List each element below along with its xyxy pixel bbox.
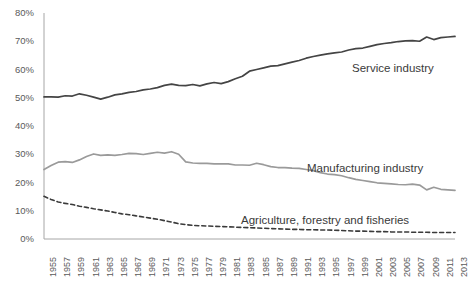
y-tick-label: 70% xyxy=(4,35,34,46)
x-tick-label: 1993 xyxy=(317,257,327,277)
y-tick-label: 40% xyxy=(4,120,34,131)
chart-plot-area xyxy=(0,0,468,281)
x-tick-label: 1995 xyxy=(331,257,341,277)
series-label-1: Manufacturing industry xyxy=(307,162,423,174)
x-tick-label: 1979 xyxy=(218,257,228,277)
axis-lines xyxy=(44,13,455,239)
x-tick-label: 2013 xyxy=(459,257,468,277)
x-tick-label: 1985 xyxy=(261,257,271,277)
industry-share-line-chart: 0%10%20%30%40%50%60%70%80% 1955195719591… xyxy=(0,0,468,281)
y-tick-label: 20% xyxy=(4,177,34,188)
y-tick-label: 10% xyxy=(4,205,34,216)
y-tick-label: 60% xyxy=(4,64,34,75)
y-tick-label: 0% xyxy=(4,233,34,244)
x-tick-label: 1977 xyxy=(204,257,214,277)
x-tick-label: 1987 xyxy=(275,257,285,277)
x-tick-label: 1967 xyxy=(133,257,143,277)
x-tick-label: 2007 xyxy=(416,257,426,277)
x-tick-label: 1961 xyxy=(91,257,101,277)
x-tick-label: 1981 xyxy=(232,257,242,277)
x-tick-label: 2011 xyxy=(445,258,455,277)
series-label-0: Service industry xyxy=(352,62,434,74)
x-tick-label: 1983 xyxy=(246,257,256,277)
x-tick-label: 2009 xyxy=(431,257,441,277)
x-tick-label: 2005 xyxy=(402,257,412,277)
x-tick-label: 2001 xyxy=(374,257,384,277)
x-tick-label: 1955 xyxy=(48,257,58,277)
x-tick-label: 2003 xyxy=(388,257,398,277)
y-tick-label: 30% xyxy=(4,148,34,159)
y-tick-label: 50% xyxy=(4,92,34,103)
x-tick-label: 1997 xyxy=(346,257,356,277)
series-label-2: Agriculture, forestry and fisheries xyxy=(241,214,409,226)
x-tick-label: 1975 xyxy=(190,257,200,277)
x-tick-label: 1991 xyxy=(303,257,313,277)
y-tick-label: 80% xyxy=(4,7,34,18)
x-tick-label: 1969 xyxy=(147,257,157,277)
x-tick-label: 1999 xyxy=(360,257,370,277)
x-tick-label: 1963 xyxy=(105,257,115,277)
x-tick-label: 1959 xyxy=(76,257,86,277)
x-tick-label: 1957 xyxy=(62,257,72,277)
x-tick-label: 1973 xyxy=(176,257,186,277)
x-tick-label: 1965 xyxy=(119,257,129,277)
x-tick-label: 1971 xyxy=(161,257,171,277)
x-tick-label: 1989 xyxy=(289,257,299,277)
